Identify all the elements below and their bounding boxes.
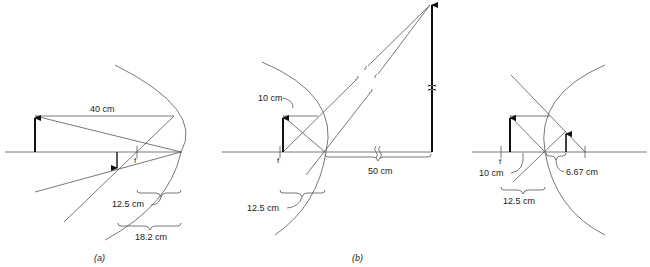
leader-object-b bbox=[283, 98, 293, 108]
object-distance-label-b: 10 cm bbox=[258, 94, 283, 103]
ray-reflected-c bbox=[511, 75, 585, 152]
brace-focal-b bbox=[280, 190, 325, 197]
ray-to-vertex-c bbox=[510, 116, 545, 152]
focal-point-label-b: f bbox=[277, 157, 279, 165]
virtual-ray-2-b bbox=[378, 5, 430, 74]
virtual-ray-1-b bbox=[368, 5, 430, 66]
brace-focal-a bbox=[137, 190, 181, 197]
focal-length-label-b: 12.5 cm bbox=[247, 204, 279, 213]
brace-image-c bbox=[546, 153, 566, 160]
object-distance-label-c: 10 cm bbox=[479, 169, 504, 178]
leader-focal-b bbox=[287, 197, 302, 208]
image-distance-label-a: 18.2 cm bbox=[135, 233, 167, 242]
leader-image-c bbox=[556, 160, 564, 172]
caption-a: (a) bbox=[94, 254, 105, 263]
object-distance-label-a: 40 cm bbox=[90, 105, 115, 114]
panel-a bbox=[5, 65, 186, 240]
focal-point-label-c: f bbox=[499, 158, 501, 166]
focal-length-label-a: 12.5 cm bbox=[112, 200, 144, 209]
ray-to-vertex-a bbox=[35, 116, 181, 152]
panel-b bbox=[222, 5, 432, 235]
ray-reflected-vertex-a bbox=[35, 152, 181, 192]
ray-reflected-vertex-b bbox=[306, 93, 370, 175]
image-distance-label-c: 6.67 cm bbox=[566, 168, 598, 177]
focal-point-label-a: f bbox=[134, 157, 136, 165]
break-mark-3-b bbox=[365, 66, 367, 70]
optics-diagram bbox=[0, 0, 650, 267]
brace-focal-c bbox=[501, 187, 545, 194]
caption-b: (b) bbox=[352, 254, 363, 263]
break-mark-4-b bbox=[375, 74, 377, 78]
break-mark-1-b bbox=[355, 76, 358, 80]
convex-mirror-c bbox=[544, 65, 605, 235]
image-distance-label-b: 50 cm bbox=[368, 167, 393, 176]
leader-object-c bbox=[511, 153, 523, 173]
ray-from-object-to-vertex-b bbox=[283, 116, 325, 152]
break-mark-2-b bbox=[369, 89, 372, 93]
focal-length-label-c: 12.5 cm bbox=[503, 197, 535, 206]
panel-c bbox=[472, 65, 647, 235]
brace-image-b bbox=[325, 154, 431, 161]
